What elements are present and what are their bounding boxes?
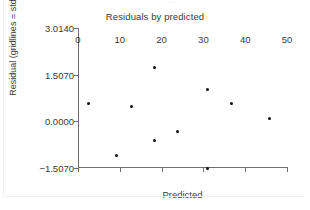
y-tick-mark [74, 121, 78, 122]
data-point [206, 88, 209, 91]
x-tick-label: 20 [156, 34, 167, 45]
x-tick-mark [203, 168, 204, 172]
y-tick-label: −1.5070 [39, 163, 74, 174]
clipped-header-text: ... [70, 0, 270, 5]
plot-area: 3.01401.50700.0000−1.5070 01020304050 [78, 28, 287, 168]
data-point [206, 167, 209, 170]
x-tick-mark [287, 168, 288, 172]
x-tick-label: 30 [198, 34, 209, 45]
y-axis-title: Residual (gridlines = std. error) [8, 0, 18, 109]
x-tick-mark [78, 168, 79, 172]
data-point [87, 102, 90, 105]
residual-plot-card: ... Residuals by predicted Residual (gri… [0, 0, 310, 210]
data-point [130, 105, 133, 108]
data-point [230, 102, 233, 105]
x-tick-mark [120, 168, 121, 172]
x-axis-title: Predicted [78, 189, 287, 200]
x-tick-label: 0 [75, 34, 80, 45]
x-tick-label: 50 [282, 34, 293, 45]
data-point [153, 66, 156, 69]
y-tick-mark [74, 28, 78, 29]
x-axis-line [78, 167, 288, 168]
y-tick-label: 0.0000 [45, 116, 74, 127]
data-point [153, 139, 156, 142]
x-tick-label: 10 [115, 34, 126, 45]
data-point [176, 130, 179, 133]
x-tick-label: 40 [240, 34, 251, 45]
data-point [115, 154, 118, 157]
y-tick-label: 3.0140 [45, 23, 74, 34]
chart-title: Residuals by predicted [0, 11, 310, 22]
data-point [268, 117, 271, 120]
y-axis-line [78, 28, 79, 169]
y-tick-mark [74, 75, 78, 76]
y-tick-label: 1.5070 [45, 69, 74, 80]
x-tick-mark [162, 168, 163, 172]
x-tick-mark [245, 168, 246, 172]
